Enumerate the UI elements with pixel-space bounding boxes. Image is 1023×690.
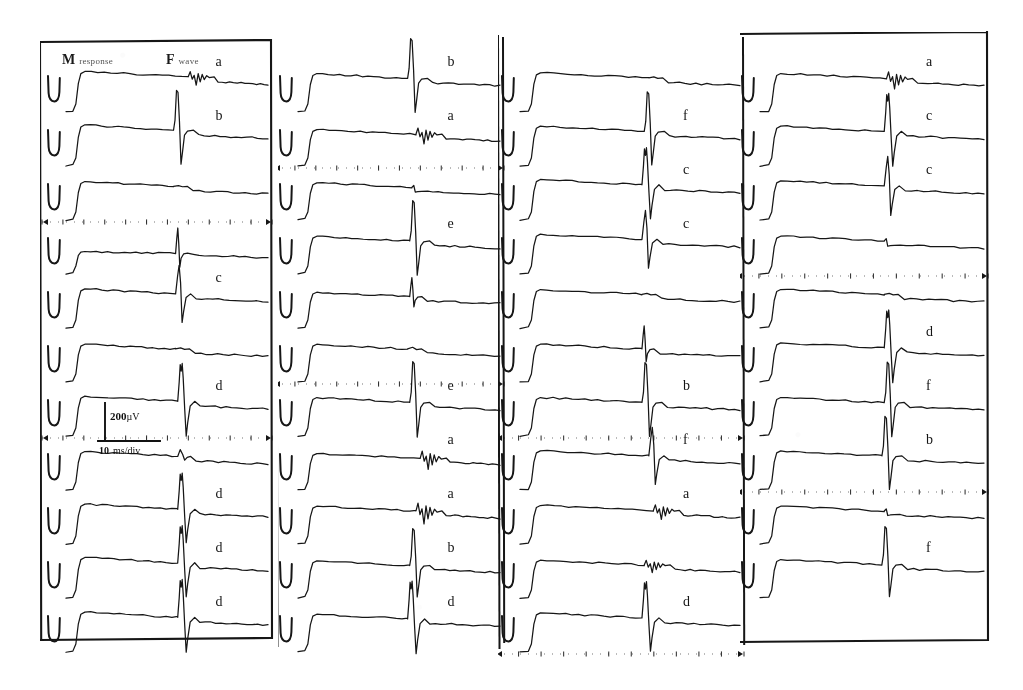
stimulus-artifact-icon <box>742 400 754 426</box>
trace-row <box>48 265 268 328</box>
f-wave-bold: F <box>166 52 175 67</box>
stimulus-artifact-icon <box>742 562 754 588</box>
emg-sweep-line <box>66 450 268 491</box>
emg-sweep-line <box>66 71 268 111</box>
trace-label: d <box>683 594 690 610</box>
trace-row <box>280 344 500 382</box>
panel-2-traces <box>278 0 506 690</box>
stimulus-artifact-icon <box>280 238 292 264</box>
emg-sweep-line <box>760 156 984 220</box>
emg-sweep-line <box>760 93 984 166</box>
stimulus-artifact-icon <box>502 400 514 426</box>
trace-label: f <box>683 108 688 124</box>
calibration-time-value: 10 <box>99 445 109 456</box>
stimulus-artifact-icon <box>742 76 754 102</box>
trace-row <box>502 290 740 329</box>
emg-sweep-line <box>760 527 984 598</box>
calibration-time-unit: ms/div <box>113 445 140 456</box>
emg-sweep-line <box>520 427 740 489</box>
trace-row <box>48 473 268 544</box>
trace-row <box>280 183 500 220</box>
trace-row <box>742 72 984 112</box>
stimulus-artifact-icon <box>502 562 514 588</box>
panel-1 <box>40 0 280 690</box>
stimulus-artifact-icon <box>48 454 60 480</box>
trace-row <box>502 427 740 489</box>
stimulus-artifact-icon <box>280 454 292 480</box>
trace-label: c <box>216 270 222 286</box>
emg-sweep-line <box>66 579 268 652</box>
timebase-axis <box>498 651 744 657</box>
emg-figure: M response F wave 200µV 10 ms/div abcddd… <box>0 0 1023 690</box>
f-wave-header: F wave <box>166 50 199 68</box>
trace-row <box>280 362 500 437</box>
calibration-vertical-label: 200µV <box>110 406 139 424</box>
panel-3 <box>498 0 746 690</box>
trace-label: d <box>448 594 455 610</box>
trace-row <box>742 362 984 437</box>
trace-label: d <box>216 594 223 610</box>
trace-row <box>280 581 500 654</box>
trace-row <box>48 450 268 491</box>
trace-row <box>502 560 740 598</box>
trace-row <box>742 527 984 598</box>
stimulus-artifact-icon <box>502 184 514 210</box>
emg-sweep-line <box>760 506 984 544</box>
panel-4-frame <box>740 0 988 642</box>
stimulus-artifact-icon <box>742 346 754 372</box>
m-response-small: response <box>79 56 113 66</box>
timebase-axis <box>42 435 272 441</box>
trace-label: b <box>448 540 455 556</box>
emg-sweep-line <box>298 128 500 166</box>
f-wave-small: wave <box>179 56 199 66</box>
trace-row <box>280 529 500 599</box>
trace-row <box>742 236 984 274</box>
stimulus-artifact-icon <box>502 346 514 372</box>
stimulus-artifact-icon <box>742 238 754 264</box>
stimulus-artifact-icon <box>48 562 60 588</box>
timebase-axis <box>498 435 744 441</box>
trace-row <box>48 228 268 274</box>
stimulus-artifact-icon <box>502 238 514 264</box>
emg-sweep-line <box>66 265 268 328</box>
trace-row <box>502 363 740 437</box>
emg-sweep-line <box>298 201 500 276</box>
stimulus-artifact-icon <box>502 292 514 318</box>
panel-3-traces <box>498 0 746 690</box>
stimulus-artifact-icon <box>48 508 60 534</box>
emg-sweep-line <box>520 72 740 111</box>
emg-sweep-line <box>298 503 500 544</box>
trace-row <box>280 39 500 113</box>
emg-sweep-line <box>298 278 500 329</box>
trace-row <box>742 506 984 544</box>
m-response-bold: M <box>62 52 75 67</box>
emg-sweep-line <box>66 473 268 544</box>
timebase-axis <box>740 489 988 495</box>
emg-sweep-line <box>760 310 984 383</box>
stimulus-artifact-icon <box>48 616 60 642</box>
emg-sweep-line <box>760 236 984 274</box>
emg-sweep-line <box>520 560 740 598</box>
stimulus-artifact-icon <box>48 130 60 156</box>
stimulus-artifact-icon <box>48 346 60 372</box>
emg-sweep-line <box>298 581 500 654</box>
trace-row <box>502 326 740 382</box>
stimulus-artifact-icon <box>280 130 292 156</box>
emg-sweep-line <box>298 529 500 599</box>
stimulus-artifact-icon <box>280 616 292 642</box>
trace-row <box>48 182 268 221</box>
emg-sweep-line <box>520 326 740 382</box>
trace-label: a <box>683 486 689 502</box>
trace-label: a <box>448 108 454 124</box>
stimulus-artifact-icon <box>280 346 292 372</box>
timebase-axis <box>278 165 504 171</box>
stimulus-artifact-icon <box>742 184 754 210</box>
emg-sweep-line <box>520 290 740 329</box>
calibration-horizontal-label: 10 ms/div <box>99 440 140 458</box>
calibration-voltage-unit: µV <box>127 411 140 422</box>
panel-2 <box>278 0 506 690</box>
trace-label: f <box>926 540 931 556</box>
stimulus-artifact-icon <box>502 508 514 534</box>
calibration-voltage-value: 200 <box>110 410 127 422</box>
emg-sweep-line <box>66 363 268 436</box>
